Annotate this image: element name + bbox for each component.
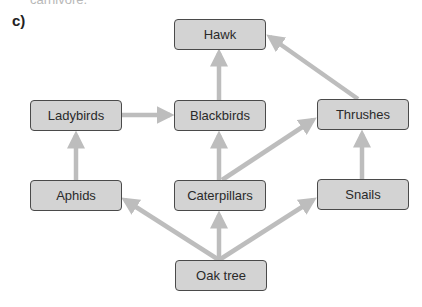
node-snails: Snails [317, 179, 409, 210]
node-blackbirds: Blackbirds [174, 100, 266, 131]
node-ladybirds: Ladybirds [30, 100, 122, 131]
node-oak-tree: Oak tree [175, 260, 267, 291]
arrow-thrushes-to-hawk [270, 37, 358, 99]
node-caterpillars: Caterpillars [174, 180, 266, 211]
node-thrushes: Thrushes [317, 99, 409, 130]
node-aphids: Aphids [30, 180, 122, 211]
node-hawk: Hawk [174, 19, 266, 50]
